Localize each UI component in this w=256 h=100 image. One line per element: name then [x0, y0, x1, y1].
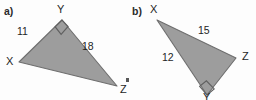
side-length-a-yz: 18	[82, 41, 94, 52]
vertex-label-a-x: X	[6, 56, 13, 67]
part-label-a: a)	[4, 6, 13, 17]
diagram-page: a) X Y Z 11 18 b) X Z Y 15 12	[0, 0, 256, 100]
triangles-figure	[0, 0, 256, 100]
side-length-b-xy: 12	[162, 52, 174, 63]
side-length-b-xz: 15	[198, 25, 210, 36]
vertex-label-b-z: Z	[242, 51, 249, 62]
vertex-label-b-y: Y	[203, 92, 210, 100]
side-length-a-xy: 11	[17, 26, 28, 37]
vertex-label-a-y: Y	[57, 4, 64, 15]
triangle-a-shape	[19, 20, 117, 86]
part-label-b: b)	[132, 6, 142, 17]
vertex-label-a-z: Z	[120, 84, 127, 95]
vertex-label-b-x: X	[150, 4, 157, 15]
scan-artifact	[126, 78, 129, 82]
